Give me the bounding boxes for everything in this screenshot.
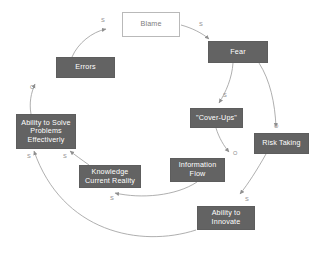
node-ability-to-innovate[interactable]: Ability to Innovate <box>197 206 255 230</box>
edge-errors-to-blame <box>72 29 106 57</box>
edge-coverups-to-infoflow <box>216 128 229 152</box>
edge-fear-to-risktaking <box>259 63 276 127</box>
edge-label-infoflow-to-knowledge: S <box>110 195 114 201</box>
node-fear-label: Fear <box>230 48 245 57</box>
node-blame-label: Blame <box>140 20 161 29</box>
node-blame[interactable]: Blame <box>122 12 180 37</box>
edge-label-risk-to-innovate: S <box>245 196 249 202</box>
node-ability-to-innovate-label: Ability to Innovate <box>212 209 241 226</box>
edge-label-innovate-to-ability: S <box>27 153 31 159</box>
node-ability-to-solve-problems-label: Ability to Solve Problems Effectiverly <box>21 119 71 145</box>
node-information-flow-label: Information Flow <box>179 161 217 178</box>
node-cover-ups-label: "Cover-Ups" <box>196 114 237 123</box>
edge-label-errors-to-blame: S <box>101 17 105 23</box>
node-knowledge-current-reality[interactable]: Knowledge Current Reality <box>79 165 141 188</box>
node-knowledge-current-reality-label: Knowledge Current Reality <box>85 168 135 185</box>
edge-label-blame-to-fear: S <box>199 21 203 27</box>
node-ability-to-solve-problems[interactable]: Ability to Solve Problems Effectiverly <box>16 114 76 149</box>
node-risk-taking[interactable]: Risk Taking <box>254 133 309 154</box>
edge-label-fear-to-coverups: S <box>223 92 227 98</box>
edge-label-fear-to-risktaking: O <box>274 123 278 129</box>
edge-label-knowledge-to-ability: S <box>63 153 67 159</box>
node-information-flow[interactable]: Information Flow <box>170 158 225 182</box>
node-errors-label: Errors <box>75 63 95 72</box>
edge-label-ability-to-errors: O <box>30 84 34 90</box>
node-cover-ups[interactable]: "Cover-Ups" <box>190 108 243 128</box>
node-fear[interactable]: Fear <box>208 41 268 63</box>
edge-label-coverups-to-infoflow: O <box>233 150 237 156</box>
node-errors[interactable]: Errors <box>56 57 115 78</box>
node-risk-taking-label: Risk Taking <box>262 139 300 148</box>
edge-risktaking-to-innovate <box>240 154 266 194</box>
edge-knowledge-to-ability <box>70 151 89 165</box>
edge-blame-to-fear <box>181 25 209 39</box>
